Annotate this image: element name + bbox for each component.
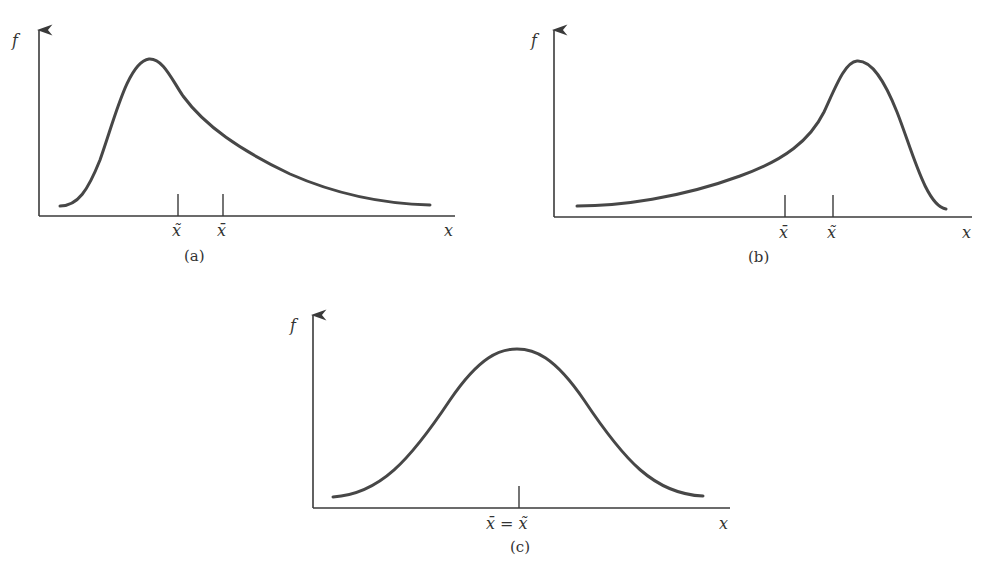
x-axis-label: x <box>962 223 971 242</box>
y-axis-label: f <box>11 31 21 50</box>
symmetric-curve <box>333 349 703 497</box>
panel-caption: (b) <box>748 248 769 266</box>
panel-b: f x x̄ x̃ (b) <box>530 30 972 266</box>
mean-label: x̄ <box>779 223 788 242</box>
x-axis-label: x <box>444 221 453 240</box>
median-label: x̃ <box>172 221 181 240</box>
panel-c: f x x̄ = x̃ (c) <box>289 315 730 556</box>
y-axis-label: f <box>530 31 540 50</box>
right-skewed-curve <box>60 59 430 206</box>
panel-a: f x x̃ x̄ (a) <box>11 30 455 265</box>
mean-equals-median-label: x̄ = x̃ <box>486 514 528 533</box>
median-label: x̃ <box>827 223 836 242</box>
x-axis-label: x <box>719 514 728 533</box>
y-axis-label: f <box>289 316 299 335</box>
panel-caption: (a) <box>184 247 205 265</box>
panel-caption: (c) <box>510 538 530 556</box>
left-skewed-curve <box>577 61 946 209</box>
skewness-figure: f x x̃ x̄ (a) f x x̄ x̃ (b) f x x̄ = x̃ … <box>0 0 996 567</box>
mean-label: x̄ <box>217 221 226 240</box>
